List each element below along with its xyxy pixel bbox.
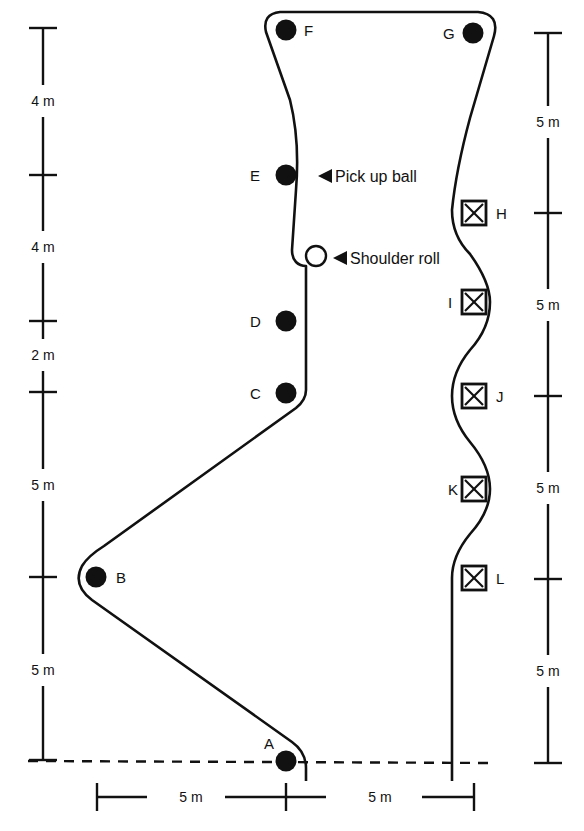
- diagram-canvas: 4 m4 m2 m5 m5 m 5 m5 m5 m5 m 5 m5 m ABCD…: [0, 0, 584, 831]
- cone-label: D: [250, 313, 261, 330]
- right-scale: 5 m5 m5 m5 m: [534, 33, 562, 763]
- pointer-arrow-icon: [318, 169, 332, 183]
- box-markers: HIJKL: [448, 201, 507, 590]
- cone-f-icon: [276, 20, 297, 41]
- pointer-arrow-icon: [333, 251, 347, 265]
- box-label: L: [496, 570, 504, 587]
- cone-markers: ABCDEFG: [86, 20, 484, 772]
- box-label: K: [448, 481, 458, 498]
- cone-b-icon: [86, 567, 107, 588]
- left-scale: 4 m4 m2 m5 m5 m: [29, 28, 57, 760]
- cone-label: A: [264, 735, 274, 752]
- scale-label: 5 m: [31, 477, 54, 493]
- scale-label: 5 m: [536, 480, 559, 496]
- scale-label: 5 m: [536, 297, 559, 313]
- annotation-shoulder-roll: Shoulder roll: [350, 250, 440, 267]
- scale-label: 2 m: [31, 347, 54, 363]
- box-label: I: [448, 294, 452, 311]
- cone-c-icon: [276, 383, 297, 404]
- scale-label: 5 m: [536, 114, 559, 130]
- annotation-pick-up-ball: Pick up ball: [335, 168, 417, 185]
- scale-label: 5 m: [536, 663, 559, 679]
- annotations: Pick up ballShoulder roll: [318, 168, 440, 267]
- scale-label: 5 m: [368, 789, 391, 805]
- cone-a-icon: [276, 751, 297, 772]
- cone-e-icon: [276, 165, 297, 186]
- bottom-scale: 5 m5 m: [97, 783, 474, 811]
- scale-label: 4 m: [31, 93, 54, 109]
- cone-d-icon: [276, 311, 297, 332]
- cone-label: C: [250, 385, 261, 402]
- scale-label: 4 m: [31, 239, 54, 255]
- box-label: J: [496, 388, 504, 405]
- cone-label: G: [443, 25, 455, 42]
- cone-label: B: [116, 569, 126, 586]
- scale-label: 5 m: [179, 789, 202, 805]
- cone-label: E: [250, 167, 260, 184]
- start-line: [28, 761, 492, 763]
- shoulder-roll-loop: [306, 246, 326, 266]
- box-label: H: [496, 205, 507, 222]
- cone-label: F: [304, 22, 313, 39]
- obstacle-course-diagram: 4 m4 m2 m5 m5 m 5 m5 m5 m5 m 5 m5 m ABCD…: [0, 0, 584, 831]
- cone-g-icon: [463, 23, 484, 44]
- scale-label: 5 m: [31, 662, 54, 678]
